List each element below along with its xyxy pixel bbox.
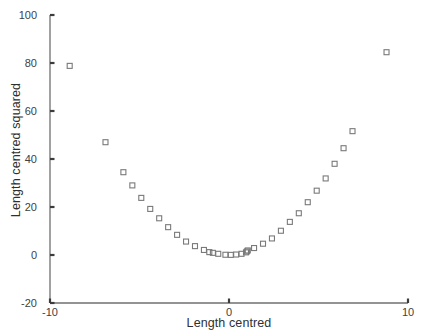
x-axis-tick-labels: -10010 [0, 0, 427, 336]
x-axis-title: Length centred [50, 313, 408, 331]
chart-figure: -20020406080100 -10010 Length centred sq… [0, 0, 427, 336]
y-axis-title: Length centred squared [2, 0, 30, 300]
x-axis-title-text: Length centred [187, 316, 272, 330]
y-axis-title-text: Length centred squared [9, 83, 23, 217]
